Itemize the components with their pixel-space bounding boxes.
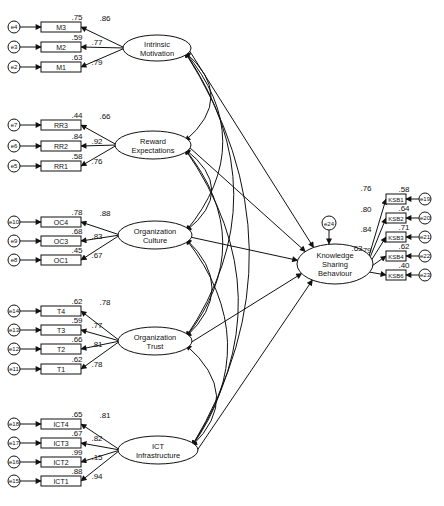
error-label: e22 (420, 253, 431, 259)
latent-label-line1: Intrinsic (144, 40, 170, 49)
error-label: e2 (11, 64, 18, 70)
loading-value: .81 (99, 411, 111, 420)
latent-label-line1: Organization (134, 333, 177, 342)
latent-label-line2: Sharing (322, 260, 348, 269)
indicator-label: ICT3 (53, 440, 68, 447)
r-squared-value: .84 (71, 132, 83, 141)
latent-label-line1: ICT (152, 442, 165, 451)
loading-arrow (369, 272, 386, 275)
indicator-label: KSB3 (388, 235, 404, 241)
loading-value: .88 (99, 209, 111, 218)
loading-value: .86 (99, 14, 111, 23)
r-squared-value: .71 (398, 223, 410, 232)
r-squared-value: .59 (71, 316, 83, 325)
loading-value: .76 (91, 157, 103, 166)
loading-value: .79 (91, 58, 103, 67)
r-squared-value: .63 (351, 244, 363, 253)
latent-label-line2: Expectations (132, 146, 175, 155)
error-label: e17 (9, 440, 20, 446)
error-label: e15 (9, 478, 20, 484)
indicator-label: KSB2 (388, 216, 404, 222)
loading-value: .80 (360, 205, 372, 214)
structural-path-ot (190, 274, 302, 343)
loading-value: .84 (360, 225, 372, 234)
r-squared-value: .44 (71, 111, 83, 120)
r-squared-value: .40 (398, 261, 410, 270)
indicator-label: T3 (57, 327, 65, 334)
error-label: e4 (11, 24, 18, 30)
error-label: e19 (420, 196, 431, 202)
indicator-label: OC4 (54, 219, 69, 226)
latent-label-line2: Trust (147, 342, 165, 351)
loading-value: .76 (360, 184, 372, 193)
error-label: e11 (9, 366, 19, 372)
latent-label-line2: Culture (143, 236, 167, 245)
loading-arrow (81, 48, 125, 67)
error-label: e24 (324, 221, 335, 227)
r-squared-value: .67 (71, 429, 83, 438)
r-squared-value: .99 (71, 448, 83, 457)
structural-path-re (189, 147, 305, 251)
structural-path-im (189, 50, 314, 247)
indicator-label: RR2 (54, 143, 68, 150)
loading-value: .82 (91, 434, 103, 443)
latent-label-line1: Knowledge (316, 251, 353, 260)
error-label: e9 (11, 238, 18, 244)
loading-value: .67 (91, 251, 103, 260)
indicator-label: T1 (57, 366, 65, 373)
indicator-label: KSB4 (388, 254, 404, 260)
loading-arrow (81, 47, 125, 48)
latent-label-line1: Organization (134, 227, 177, 236)
structural-paths (189, 50, 314, 452)
indicator-label: T2 (57, 346, 65, 353)
indicator-label: RR3 (54, 122, 68, 129)
r-squared-value: .88 (71, 467, 83, 476)
indicator-label: M1 (56, 64, 66, 71)
loading-value: .83 (91, 232, 103, 241)
structural-path-oc (190, 237, 298, 260)
error-label: e12 (9, 346, 20, 352)
loading-value: .77 (91, 38, 103, 47)
error-label: e20 (420, 215, 431, 221)
structural-path-ict (196, 280, 312, 452)
latent-label-line2: Motivation (140, 49, 174, 58)
error-label: e14 (9, 308, 20, 314)
latent-label-line3: Behaviour (318, 269, 352, 278)
covariance-arc (185, 52, 223, 231)
error-label: e10 (9, 219, 20, 225)
indicator-label: KSB6 (388, 273, 404, 279)
error-label: e7 (11, 122, 18, 128)
error-label: e13 (9, 327, 20, 333)
loading-value: .81 (91, 340, 103, 349)
indicator-label: T4 (57, 308, 65, 315)
r-squared-value: .66 (71, 335, 83, 344)
indicator-label: ICT1 (53, 478, 68, 485)
error-label: e3 (11, 44, 18, 50)
error-label: e23 (420, 272, 431, 278)
r-squared-value: .62 (71, 297, 83, 306)
error-label: e21 (420, 234, 431, 240)
loading-value: .66 (99, 112, 111, 121)
error-label: e6 (11, 143, 18, 149)
r-squared-value: .78 (71, 208, 83, 217)
loading-value: .78 (99, 298, 111, 307)
indicator-label: ICT4 (53, 421, 68, 428)
loading-value: .94 (91, 472, 103, 481)
r-squared-value: .65 (71, 410, 83, 419)
r-squared-value: .62 (71, 355, 83, 364)
r-squared-value: .59 (71, 33, 83, 42)
r-squared-value: .68 (71, 227, 83, 236)
latent-label-line2: Infrastructure (136, 451, 180, 460)
latent-label-line1: Reward (140, 137, 166, 146)
indicator-label: ICT2 (53, 459, 68, 466)
r-squared-value: .63 (71, 53, 83, 62)
covariance-arc (186, 239, 212, 337)
loading-value: .15 (91, 453, 103, 462)
indicator-label: OC3 (54, 238, 69, 245)
r-squared-value: .58 (398, 185, 410, 194)
sem-diagram: M3e4.75.86M2e3.59.77M1e2.63.79RR3e7.44.6… (0, 0, 444, 506)
r-squared-value: .64 (398, 204, 410, 213)
r-squared-value: .45 (71, 246, 83, 255)
loading-value: .92 (91, 137, 103, 146)
indicator-label: M3 (56, 24, 66, 31)
